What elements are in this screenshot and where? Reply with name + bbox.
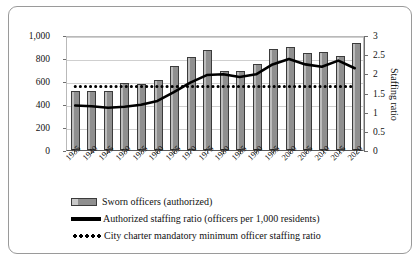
y-axis-right-tick: [364, 151, 368, 152]
plot-area: [66, 36, 364, 151]
legend-item-authorized-staffing-ratio: Authorized staffing ratio (officers per …: [71, 210, 391, 227]
chart-legend: Sworn officers (authorized) Authorized s…: [71, 193, 391, 244]
bar-swatch-icon: [71, 198, 97, 206]
y-axis-right-tick: [364, 55, 368, 56]
authorized-staffing-ratio-line: [75, 59, 355, 108]
y-axis-left-tick-label: 400: [2, 101, 50, 110]
y-axis-left-tick-label: 600: [2, 78, 50, 87]
y-axis-right-tick: [364, 113, 368, 114]
legend-label: Sworn officers (authorized): [102, 196, 212, 207]
legend-item-charter-minimum: City charter mandatory minimum officer s…: [71, 227, 391, 244]
y-axis-right-tick: [364, 132, 368, 133]
legend-label: Authorized staffing ratio (officers per …: [103, 213, 320, 224]
chart-figure: 02004006008001,000 00.511.522.53 Staffin…: [8, 6, 412, 254]
line-series: [67, 37, 363, 151]
legend-item-sworn-officers: Sworn officers (authorized): [71, 193, 391, 210]
solid-line-swatch-icon: [71, 217, 101, 221]
y-axis-left-tick-label: 1,000: [2, 32, 50, 41]
y-axis-left-tick-label: 0: [2, 147, 50, 156]
y-axis-right-tick: [364, 74, 368, 75]
y-axis-right-tick: [364, 94, 368, 95]
y-axis-left-tick-label: 800: [2, 55, 50, 64]
dotted-line-swatch-icon: [71, 234, 101, 238]
y-axis-right-title: Staffing ratio: [387, 37, 401, 152]
y-axis-right-tick: [364, 36, 368, 37]
legend-label: City charter mandatory minimum officer s…: [104, 230, 321, 241]
y-axis-left-tick-label: 200: [2, 124, 50, 133]
